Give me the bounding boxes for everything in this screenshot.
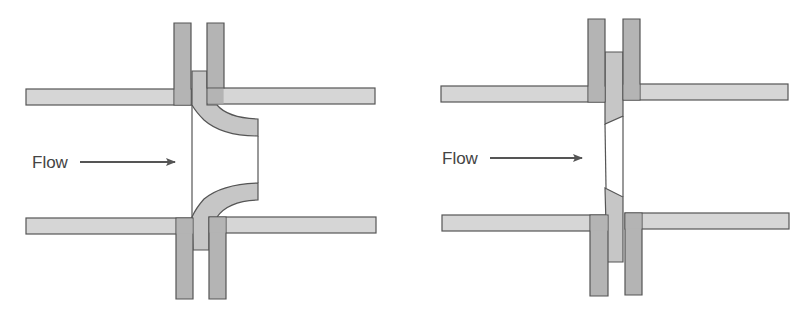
flow-label: Flow (442, 149, 479, 168)
lower-pipe-wall-left (26, 218, 193, 234)
upstream-flange-top-joint (175, 90, 191, 105)
downstream-flange-top (207, 23, 224, 88)
flow-nozzle-diagram: Flow (26, 23, 376, 299)
upper-pipe-wall-right (207, 88, 375, 104)
lower-pipe-wall-left (442, 215, 608, 231)
downstream-flange-top-joint (624, 85, 640, 100)
downstream-flange-bottom-joint (210, 218, 226, 233)
upstream-flange-top-joint (589, 87, 605, 102)
upstream-flange-bottom-joint (177, 219, 193, 234)
orifice-plate-diagram: Flow (441, 19, 789, 296)
lower-pipe-wall-right (625, 213, 789, 229)
flow-label: Flow (32, 153, 69, 172)
upper-pipe-wall-left (441, 86, 605, 102)
upper-pipe-wall-left (26, 89, 192, 105)
figure-canvas: Flow Flow (0, 0, 812, 316)
downstream-flange-top-joint (208, 89, 224, 104)
orifice-plate-top (605, 52, 623, 124)
downstream-flange-bottom-joint (626, 214, 642, 229)
upstream-flange-bottom-joint (591, 216, 608, 231)
lower-pipe-wall-right (209, 217, 376, 233)
orifice-bore-upstream-edge (605, 124, 606, 188)
upper-pipe-wall-right (623, 84, 788, 100)
